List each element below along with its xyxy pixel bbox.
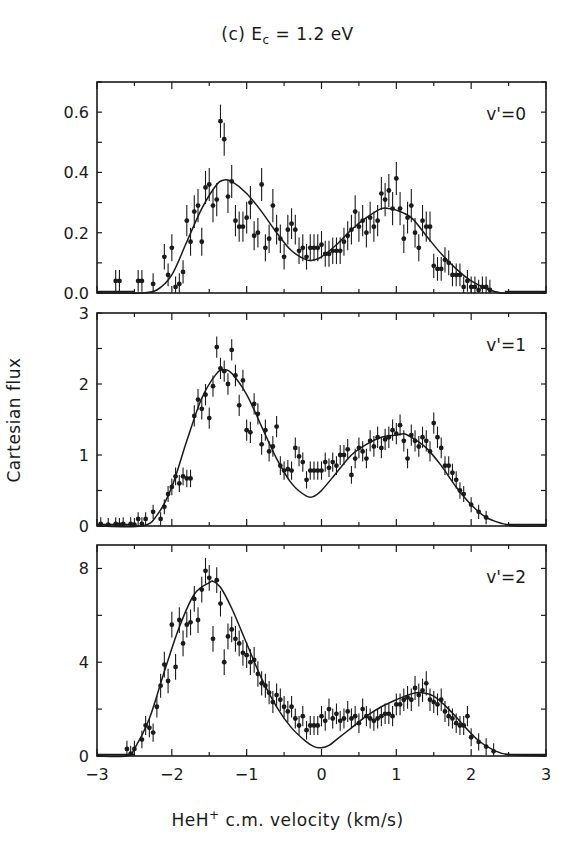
data-point [379,191,384,196]
data-point [435,435,440,440]
data-point [401,236,406,241]
y-tick-label: 3 [79,304,89,323]
panel-annotation: v'=0 [486,104,526,124]
data-point [233,218,238,223]
data-point [334,463,339,468]
data-point [476,288,481,293]
data-point [282,254,287,259]
data-point [237,403,242,408]
data-point [218,119,223,124]
data-point [263,245,268,250]
panel-bottom: 048−3−2−10123v'=2 [79,545,551,784]
data-point [334,711,339,716]
data-point [424,438,429,443]
data-point [345,447,350,452]
data-point [424,681,429,686]
data-point [143,517,148,522]
panel-top: 0.00.20.40.6v'=0 [64,82,546,303]
data-point [413,686,418,691]
y-tick-label: 0.6 [64,103,89,122]
data-point [177,282,182,287]
data-point [315,723,320,728]
data-point [147,725,152,730]
data-point [293,227,298,232]
data-point [390,714,395,719]
data-point [398,702,403,707]
data-point [409,697,414,702]
data-point [222,660,227,665]
data-point [177,481,182,486]
data-point [390,428,395,433]
data-point [136,517,141,522]
data-point [196,203,201,208]
data-point [360,449,365,454]
data-point [338,248,343,253]
data-point [274,693,279,698]
data-point [162,254,167,259]
data-point [416,245,421,250]
data-point [330,460,335,465]
data-point [282,704,287,709]
data-point [140,279,145,284]
data-point [241,224,246,229]
data-point [349,472,354,477]
data-point [293,446,298,451]
data-point [226,634,231,639]
y-tick-label: 0.4 [64,163,89,182]
data-point [300,245,305,250]
data-point [117,279,122,284]
data-point [237,641,242,646]
data-point [293,716,298,721]
data-point [413,230,418,235]
data-point [218,601,223,606]
x-tick-label: 2 [466,765,476,784]
data-point [289,221,294,226]
data-point [446,463,451,468]
data-point [166,273,171,278]
data-point [203,185,208,190]
data-point [371,444,376,449]
data-point [166,679,171,684]
data-point [461,285,466,290]
data-point [199,406,204,411]
data-point [330,716,335,721]
data-point [394,176,399,181]
data-point [248,430,253,435]
data-point [226,382,231,387]
data-point [353,456,358,461]
data-point [353,714,358,719]
panel-middle: 0123v'=1 [79,304,546,536]
data-point [211,384,216,389]
data-points [97,558,546,756]
data-point [188,239,193,244]
data-point [181,641,186,646]
data-point [300,460,305,465]
data-point [416,444,421,449]
data-point [431,421,436,426]
data-point [207,416,212,421]
data-point [226,194,231,199]
data-point [248,200,253,205]
data-point [267,449,272,454]
data-point [297,723,302,728]
data-point [323,460,328,465]
data-point [244,653,249,658]
data-points [97,336,546,527]
data-point [214,197,219,202]
data-point [203,568,208,573]
y-tick-label: 2 [79,375,89,394]
x-tick-label: −2 [160,765,184,784]
data-point [375,218,380,223]
y-tick-label: 0 [79,517,89,536]
data-point [360,707,365,712]
data-point [319,242,324,247]
data-point [323,718,328,723]
data-point [229,348,234,353]
data-point [252,233,257,238]
data-point [439,446,444,451]
data-point [214,345,219,350]
data-point [371,224,376,229]
data-point [196,618,201,623]
data-point [435,702,440,707]
data-point [285,709,290,714]
